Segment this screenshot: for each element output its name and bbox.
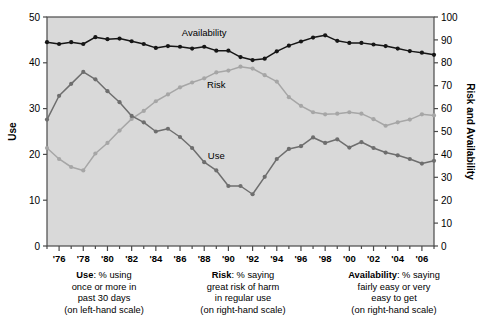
x-axis-tick-label: '92 — [246, 253, 259, 264]
data-point — [81, 42, 85, 46]
y-axis-tick-label: 0 — [34, 241, 40, 252]
data-point — [408, 157, 412, 161]
data-point — [117, 100, 121, 104]
data-point — [190, 146, 194, 150]
data-point — [45, 146, 49, 150]
data-point — [190, 80, 194, 84]
data-point — [432, 53, 436, 57]
data-point — [226, 68, 230, 72]
y2-axis-tick-label: 40 — [441, 149, 453, 160]
data-point — [142, 109, 146, 113]
x-axis-tick-label: '78 — [77, 253, 90, 264]
data-point — [287, 147, 291, 151]
y2-axis-tick-label: 60 — [441, 103, 453, 114]
x-axis-tick-label: '00 — [343, 253, 356, 264]
caption-risk-line1-rest: : % saying — [231, 270, 274, 280]
data-point — [420, 112, 424, 116]
data-point — [299, 144, 303, 148]
data-point — [287, 44, 291, 48]
caption-use-bold: Use — [76, 270, 93, 280]
caption-availability-line1: Availability: % saying — [348, 270, 440, 280]
data-point — [311, 36, 315, 40]
data-point — [178, 135, 182, 139]
data-point — [323, 112, 327, 116]
data-point — [396, 47, 400, 51]
x-axis-tick-label: '82 — [125, 253, 138, 264]
data-point — [130, 39, 134, 43]
y-axis-tick-label: 10 — [29, 195, 41, 206]
caption-risk-line4: (on right-hand scale) — [200, 305, 285, 315]
data-point — [323, 141, 327, 145]
caption-availability: Availability: % saying fairly easy or ve… — [310, 270, 478, 316]
y2-axis-tick-label: 80 — [441, 57, 453, 68]
y-axis-title: Use — [7, 122, 18, 141]
caption-availability-line4: (on right-hand scale) — [351, 305, 436, 315]
data-point — [154, 129, 158, 133]
data-point — [93, 151, 97, 155]
data-point — [226, 184, 230, 188]
data-point — [105, 141, 109, 145]
caption-risk: Risk: % saying great risk of harm in reg… — [168, 270, 318, 316]
caption-availability-line2: fairly easy or very — [358, 282, 431, 292]
data-point — [275, 79, 279, 83]
x-axis-tick-label: '06 — [415, 253, 428, 264]
caption-availability-line1-rest: : % saying — [397, 270, 440, 280]
data-point — [408, 117, 412, 121]
data-point — [275, 49, 279, 53]
x-axis-tick-label: '90 — [222, 253, 235, 264]
data-point — [287, 95, 291, 99]
data-point — [359, 112, 363, 116]
y2-axis-tick-label: 100 — [441, 12, 458, 23]
plot-area-background — [47, 17, 434, 246]
x-axis-tick-label: '80 — [101, 253, 114, 264]
data-point — [214, 168, 218, 172]
data-point — [250, 58, 254, 62]
x-axis-tick-label: '98 — [319, 253, 332, 264]
data-point — [335, 112, 339, 116]
data-point — [81, 168, 85, 172]
caption-use-line1-rest: : % using — [93, 270, 131, 280]
data-point — [384, 44, 388, 48]
data-point — [154, 46, 158, 50]
data-point — [93, 35, 97, 39]
data-point — [166, 127, 170, 131]
data-point — [117, 36, 121, 40]
data-point — [335, 39, 339, 43]
series-label-use: Use — [208, 150, 225, 161]
caption-use-line3: past 30 days — [78, 293, 131, 303]
data-point — [238, 55, 242, 59]
data-point — [396, 153, 400, 157]
data-point — [105, 89, 109, 93]
data-point — [275, 157, 279, 161]
caption-availability-bold: Availability — [348, 270, 397, 280]
data-point — [154, 99, 158, 103]
data-point — [69, 82, 73, 86]
x-axis-tick-label: '94 — [270, 253, 284, 264]
y2-axis-tick-label: 10 — [441, 218, 453, 229]
data-point — [202, 45, 206, 49]
data-point — [384, 150, 388, 154]
data-point — [384, 124, 388, 128]
data-point — [178, 45, 182, 49]
data-point — [250, 66, 254, 70]
data-point — [45, 117, 49, 121]
x-axis-tick-label: '02 — [367, 253, 380, 264]
data-point — [226, 49, 230, 53]
y-axis-tick-label: 20 — [29, 149, 41, 160]
data-point — [371, 42, 375, 46]
data-point — [130, 114, 134, 118]
data-point — [359, 41, 363, 45]
data-point — [69, 165, 73, 169]
y-axis-tick-label: 50 — [29, 12, 41, 23]
data-point — [420, 51, 424, 55]
data-point — [347, 110, 351, 114]
y2-axis-tick-label: 0 — [441, 241, 447, 252]
data-point — [371, 117, 375, 121]
data-point — [347, 145, 351, 149]
data-point — [190, 47, 194, 51]
data-point — [420, 161, 424, 165]
data-point — [299, 39, 303, 43]
data-point — [214, 70, 218, 74]
data-point — [178, 85, 182, 89]
y-axis-tick-label: 40 — [29, 57, 41, 68]
